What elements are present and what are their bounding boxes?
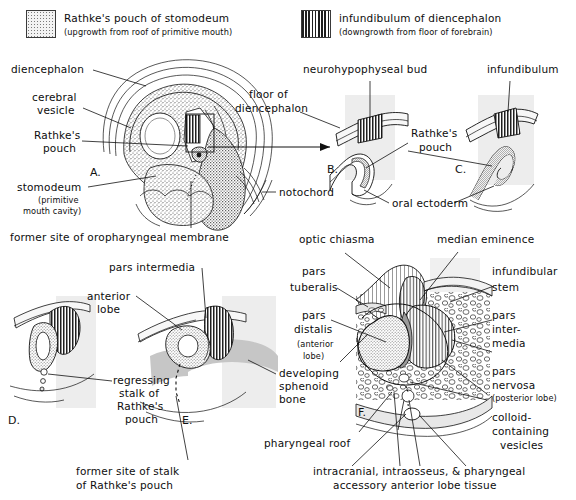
legend-label-infundibulum: infundibulum of diencephalon [339,13,501,25]
label-pars-distalis-sub-line1: (anterior [297,340,334,349]
label-pars-tuberalis-line2: tuberalis [290,282,338,294]
embryology-figure: Rathke's pouch of stomodeum (upgrowth fr… [0,0,576,500]
panel-f-artwork [356,258,492,436]
label-pars-nervosa-line2: nervosa [492,380,535,392]
legend-swatch-infundibulum [301,10,331,38]
label-notochord: notochord [279,187,334,199]
panel-d-artwork [10,296,96,408]
legend-label-rathkes-pouch: Rathke's pouch of stomodeum [64,13,229,25]
label-colloid-line1: colloid- [492,412,531,424]
label-pars-distalis-sub-line2: lobe) [303,352,324,361]
label-pharyngeal-roof: pharyngeal roof [264,438,350,450]
label-developing-sphenoid-line3: bone [279,394,306,406]
label-pars-intermedia-f-line1: pars [492,310,516,322]
label-pars-intermedia-f-line3: media [492,338,526,350]
label-developing-sphenoid-line1: developing [279,368,339,380]
label-regressing-stalk-line4: pouch [125,414,158,426]
label-stomodeum-sub-line1: (primitive [38,196,79,205]
label-anterior-lobe-line1: anterior [87,291,130,303]
label-stomodeum-sub-line2: mouth cavity) [23,207,81,216]
label-colloid-line3: vesicles [500,440,543,452]
label-rathkes-pouch-a-line2: pouch [43,143,76,155]
label-former-site-stalk-line2: of Rathke's pouch [76,480,173,492]
label-former-site-stalk-line1: former site of stalk [76,466,179,478]
panel-id-a: A. [90,166,101,179]
label-pars-intermedia-f-line2: inter- [492,324,521,336]
label-rathkes-pouch-bc-line2: pouch [419,142,452,154]
panel-c-artwork [466,95,538,211]
legend-sub-rathkes-pouch: (upgrowth from roof of primitive mouth) [64,28,232,37]
panel-id-b: B. [327,163,338,176]
panel-id-e: E. [182,414,192,427]
panel-id-c: C. [455,163,466,176]
label-pars-tuberalis-line1: pars [302,266,326,278]
label-pars-nervosa-line1: pars [492,366,516,378]
label-regressing-stalk-line1: regressing [113,375,170,387]
legend-sub-infundibulum: (downgrowth from floor of forebrain) [339,28,493,37]
label-neurohypophyseal-bud: neurohypophyseal bud [303,64,427,76]
legend-swatch-rathkes-pouch [26,10,56,38]
panel-a-artwork [103,60,272,230]
label-regressing-stalk-line3: Rathke's [117,401,163,413]
label-infundibulum: infundibulum [487,64,559,76]
label-floor-of-diencephalon-line2: diencephalon [235,103,308,115]
label-stomodeum: stomodeum [17,182,81,194]
label-pars-nervosa-sub: (posterior lobe) [492,394,557,403]
label-optic-chiasma: optic chiasma [299,234,375,246]
label-floor-of-diencephalon-line1: floor of [249,89,288,101]
label-regressing-stalk-line2: stalk of [119,388,159,400]
label-oropharyngeal-membrane: former site of oropharyngeal membrane [10,232,229,244]
label-diencephalon: diencephalon [11,64,84,76]
label-rathkes-pouch-a-line1: Rathke's [34,130,80,142]
label-cerebral-vesicle-line1: cerebral [32,92,77,104]
label-infundibular-stem-line2: stem [492,282,519,294]
label-pars-distalis-line1: pars [302,310,326,322]
label-oral-ectoderm: oral ectoderm [392,198,468,210]
label-colloid-line2: containing [492,426,549,438]
label-infundibular-stem-line1: infundibular [492,266,558,278]
label-accessory-tissue-line2: accessory anterior lobe tissue [333,480,497,492]
panel-id-d: D. [8,414,20,427]
label-rathkes-pouch-bc-line1: Rathke's [411,128,457,140]
label-cerebral-vesicle-line2: vesicle [37,105,75,117]
label-anterior-lobe-line2: lobe [97,304,120,316]
label-developing-sphenoid-line2: sphenoid [279,381,329,393]
label-median-eminence: median eminence [437,234,534,246]
label-pars-distalis-line2: distalis [294,324,333,336]
label-pars-intermedia-e: pars intermedia [109,262,195,274]
label-accessory-tissue-line1: intracranial, intraosseus, & pharyngeal [313,466,525,478]
panel-id-f: F. [358,406,366,419]
